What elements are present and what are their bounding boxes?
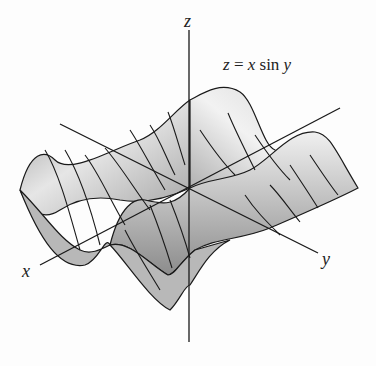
x-axis-label: x — [21, 261, 30, 281]
surface-plot-figure: z x y z = x sin y — [0, 0, 376, 366]
surface-plot-svg: z x y z = x sin y — [0, 0, 376, 366]
z-axis-label: z — [183, 11, 191, 31]
equation-label: z = x sin y — [222, 55, 292, 74]
y-axis-label: y — [320, 249, 330, 269]
